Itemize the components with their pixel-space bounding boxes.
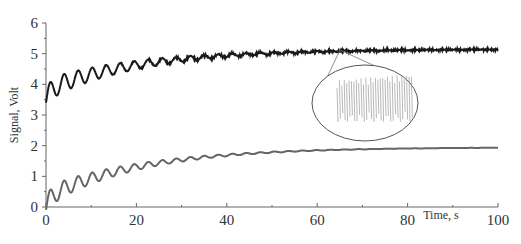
y-tick-label: 2 xyxy=(31,138,39,154)
tick-labels: 0204060801000123456 xyxy=(31,15,510,228)
zoom-inset xyxy=(312,50,418,141)
x-tick-label: 0 xyxy=(42,212,50,228)
x-axis-label: Time, s xyxy=(423,208,459,222)
y-tick-label: 1 xyxy=(31,168,39,184)
x-tick-label: 40 xyxy=(219,212,234,228)
x-tick-label: 100 xyxy=(487,212,510,228)
x-tick-label: 80 xyxy=(400,212,415,228)
y-tick-label: 0 xyxy=(31,199,39,215)
x-tick-label: 20 xyxy=(129,212,144,228)
x-tick-label: 60 xyxy=(310,212,325,228)
y-tick-label: 5 xyxy=(31,46,39,62)
lower-signal-line xyxy=(46,148,498,210)
y-tick-label: 4 xyxy=(31,76,39,92)
upper-signal-line xyxy=(46,48,498,102)
y-tick-label: 3 xyxy=(31,107,39,123)
y-axis-label: Signal, Volt xyxy=(7,86,21,143)
y-tick-label: 6 xyxy=(31,15,39,31)
signal-chart: 0204060801000123456 Signal, Volt Time, s xyxy=(0,0,521,244)
